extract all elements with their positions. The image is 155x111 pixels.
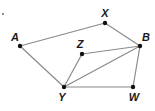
point-z [80,52,84,56]
point-label-a: A [10,31,19,43]
point-label-z: Z [76,38,85,50]
edge-a-y [20,46,64,87]
point-label-y: Y [58,91,67,103]
edges-group [20,23,140,87]
point-label-x: X [100,7,109,19]
edge-z-b [82,46,140,54]
edge-x-b [105,23,140,46]
edge-a-x [20,23,105,46]
point-y [62,85,66,89]
graph-diagram: AXBZYW [0,0,155,111]
point-label-b: B [142,31,150,43]
point-a [18,44,22,48]
point-b [138,44,142,48]
point-label-w: W [129,91,141,103]
point-x [103,21,107,25]
stray-dot-mark [2,13,4,15]
edge-w-b [133,46,140,87]
labels-group: AXBZYW [10,7,150,103]
point-w [131,85,135,89]
